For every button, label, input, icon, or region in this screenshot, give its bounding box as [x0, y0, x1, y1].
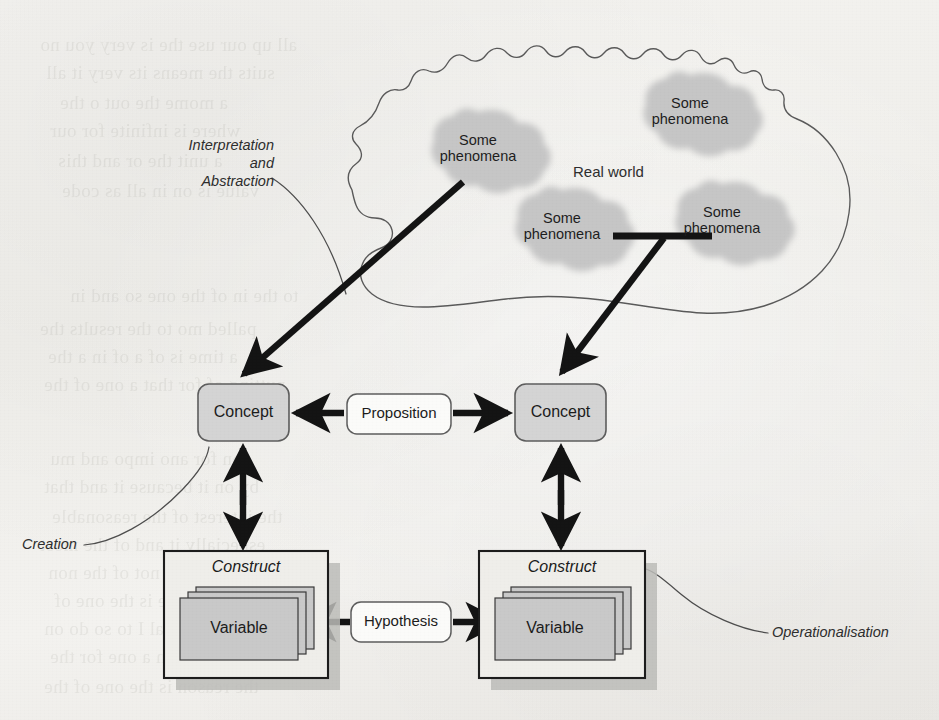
phenomena-caption-line-2: phenomena — [672, 220, 772, 236]
variable-right-label: Variable — [495, 619, 615, 637]
leader-line-interpretation — [272, 178, 346, 294]
phenomena-caption-bottom-left: Some phenomena — [512, 210, 612, 242]
leader-line-operationalisation — [646, 569, 768, 633]
phenomena-caption-top-right: Some phenomena — [640, 95, 740, 127]
phenomena-caption-left: Some phenomena — [428, 132, 528, 164]
annotation-interpretation-and-abstraction: Interpretation and Abstraction — [134, 136, 274, 190]
arrow-phenomena-to-concept-left — [244, 182, 463, 374]
annotation-line-3: Abstraction — [134, 172, 274, 190]
leader-line-creation — [84, 447, 209, 545]
phenomena-caption-line-2: phenomena — [640, 111, 740, 127]
annotation-line-1: Interpretation — [134, 136, 274, 154]
phenomena-caption-line-1: Some — [672, 204, 772, 220]
construct-left-label: Construct — [164, 558, 328, 576]
concept-left-label: Concept — [198, 403, 289, 421]
annotation-creation: Creation — [22, 536, 77, 552]
hypothesis-label: Hypothesis — [351, 612, 451, 629]
vertical-double-arrows — [243, 448, 561, 546]
variable-left-label: Variable — [180, 619, 298, 637]
phenomena-caption-line-1: Some — [428, 132, 528, 148]
proposition-label: Proposition — [347, 404, 451, 421]
relation-boxes — [347, 394, 451, 642]
annotation-operationalisation: Operationalisation — [772, 624, 889, 640]
real-world-label: Real world — [573, 163, 644, 180]
diagram-canvas — [0, 0, 939, 720]
phenomena-caption-line-2: phenomena — [512, 226, 612, 242]
annotation-line-2: and — [134, 154, 274, 172]
phenomena-caption-line-1: Some — [640, 95, 740, 111]
concept-right-label: Concept — [515, 403, 606, 421]
phenomena-caption-bottom-right: Some phenomena — [672, 204, 772, 236]
phenomena-caption-line-2: phenomena — [428, 148, 528, 164]
phenomena-caption-line-1: Some — [512, 210, 612, 226]
scanned-page: all up our use the is very you nosuits t… — [0, 0, 939, 720]
construct-right-label: Construct — [479, 558, 645, 576]
